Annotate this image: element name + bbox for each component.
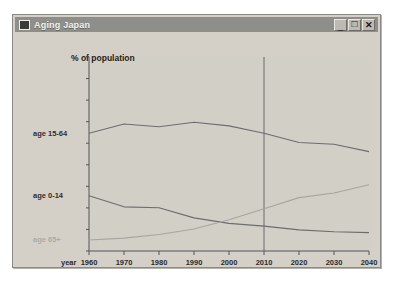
- x-axis-tick-label: 1990: [186, 258, 203, 267]
- chart-title-label: % of population: [71, 53, 135, 63]
- x-axis-tick-label: 1970: [116, 258, 133, 267]
- window-client-area: % of population1960197019801990200020102…: [15, 33, 378, 265]
- series-label-age-15-64: age 15-64: [33, 129, 68, 138]
- close-icon: ✕: [363, 20, 374, 30]
- x-axis-title: year: [61, 258, 77, 267]
- minimize-button[interactable]: _: [334, 19, 347, 31]
- maximize-icon: □: [349, 19, 360, 29]
- x-axis-tick-label: 2000: [221, 258, 238, 267]
- title-bar[interactable]: Aging Japan _ □ ✕: [15, 17, 378, 32]
- x-axis-tick-label: 2030: [326, 258, 343, 267]
- x-axis-tick-label: 2010: [256, 258, 273, 267]
- window-title: Aging Japan: [34, 20, 90, 30]
- app-window: Aging Japan _ □ ✕ % of population1960197…: [12, 14, 381, 268]
- series-label-age-65-: age 65+: [33, 235, 61, 244]
- minimize-icon: _: [335, 21, 346, 31]
- maximize-button[interactable]: □: [348, 19, 361, 31]
- line-chart: % of population1960197019801990200020102…: [15, 33, 380, 267]
- close-button[interactable]: ✕: [362, 19, 375, 31]
- window-controls: _ □ ✕: [334, 19, 376, 31]
- x-axis-tick-label: 2040: [361, 258, 378, 267]
- series-label-age-0-14: age 0-14: [33, 191, 64, 200]
- x-axis-tick-label: 1960: [81, 258, 98, 267]
- x-axis-tick-label: 1980: [151, 258, 168, 267]
- window-app-icon: [19, 20, 30, 30]
- plot-background: [89, 57, 369, 251]
- x-axis-tick-label: 2020: [291, 258, 308, 267]
